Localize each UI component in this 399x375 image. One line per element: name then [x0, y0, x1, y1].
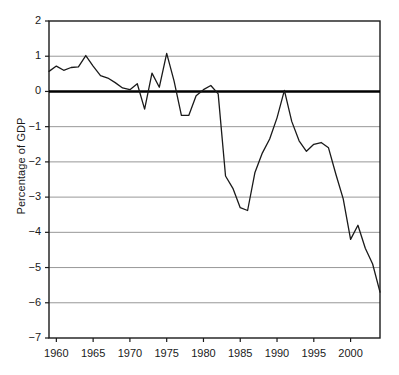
y-tick-label: −6	[15, 296, 41, 308]
y-tick-label: 2	[15, 14, 41, 26]
x-tick-label: 1970	[110, 347, 150, 359]
plot-border	[49, 21, 380, 338]
chart-container: Percentage of GDP 210−1−2−3−4−5−6−7 1960…	[0, 0, 399, 375]
y-tick-label: −4	[15, 225, 41, 237]
y-tick-label: −2	[15, 155, 41, 167]
y-tick-label: −1	[15, 120, 41, 132]
y-tick-label: −5	[15, 261, 41, 273]
x-tick-label: 1990	[257, 347, 297, 359]
gridlines-group	[49, 56, 380, 303]
x-tick-label: 1985	[220, 347, 260, 359]
data-series-line	[49, 53, 380, 292]
x-tick-label: 1995	[294, 347, 334, 359]
line-chart-plot	[0, 0, 399, 375]
y-tick-label: −3	[15, 190, 41, 202]
y-tick-label: 1	[15, 49, 41, 61]
x-tick-label: 2000	[331, 347, 371, 359]
y-tick-label: −7	[15, 331, 41, 343]
x-tick-label: 1965	[73, 347, 113, 359]
y-tick-label: 0	[15, 84, 41, 96]
x-tick-label: 1975	[147, 347, 187, 359]
x-tick-label: 1960	[36, 347, 76, 359]
x-tick-label: 1980	[183, 347, 223, 359]
